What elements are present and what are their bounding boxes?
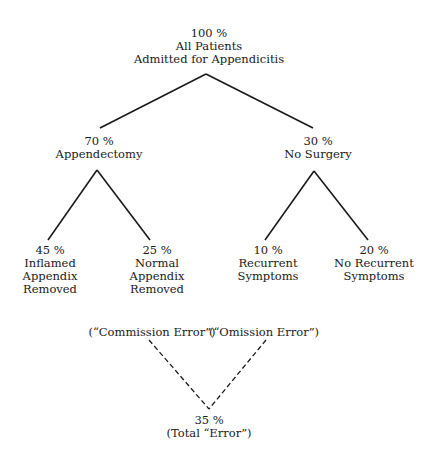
no-surgery-label: No Surgery [284, 148, 352, 161]
inflamed-appendix-node: 45 % Inflamed Appendix Removed [23, 244, 78, 296]
omission-error-text: (“Omission Error”) [209, 326, 319, 339]
no-recurrent-label-line: Symptoms [334, 270, 414, 283]
edge-omission-to-total [209, 340, 266, 409]
normal-appendix-node: 25 % Normal Appendix Removed [130, 244, 185, 296]
edge-appendectomy-to-inflamed [48, 170, 97, 240]
edge-commission-to-total [149, 340, 209, 409]
edge-appendectomy-to-normal [97, 170, 150, 240]
edge-no-surgery-to-no-recurrent [314, 171, 368, 240]
edge-no-surgery-to-recurrent [265, 171, 314, 240]
edge-root-to-appendectomy [100, 74, 206, 128]
total-error-label: (Total “Error”) [166, 427, 251, 440]
root-label-line: Admitted for Appendicitis [134, 53, 284, 66]
commission-error-text: (“Commission Error”) [88, 326, 215, 339]
appendectomy-node: 70 % Appendectomy [56, 135, 143, 161]
omission-error-label: (“Omission Error”) [209, 326, 319, 339]
appendectomy-label: Appendectomy [56, 148, 143, 161]
recurrent-symptoms-node: 10 % Recurrent Symptoms [238, 244, 299, 283]
tree-connectors [0, 0, 430, 464]
no-surgery-node: 30 % No Surgery [284, 135, 352, 161]
normal-label-line: Removed [130, 283, 185, 296]
root-node: 100 % All Patients Admitted for Appendic… [134, 27, 284, 66]
total-error-node: 35 % (Total “Error”) [166, 414, 251, 440]
edge-root-to-no-surgery [206, 74, 313, 128]
inflamed-label-line: Removed [23, 283, 78, 296]
no-recurrent-symptoms-node: 20 % No Recurrent Symptoms [334, 244, 414, 283]
commission-error-label: (“Commission Error”) [88, 326, 215, 339]
recurrent-label-line: Symptoms [238, 270, 299, 283]
